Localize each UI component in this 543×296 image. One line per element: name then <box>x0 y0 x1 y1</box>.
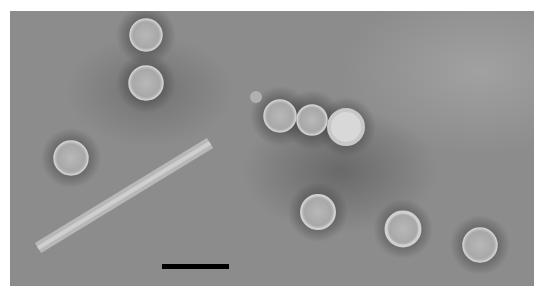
particle <box>386 212 420 246</box>
particle <box>329 110 363 144</box>
scale-bar <box>162 264 229 269</box>
particle-small <box>250 91 262 103</box>
micrograph <box>10 11 534 286</box>
particle <box>463 228 497 262</box>
particle-halos <box>41 11 510 275</box>
particle <box>54 141 88 175</box>
particle <box>130 19 162 51</box>
particle <box>301 195 335 229</box>
particles-layer <box>10 11 534 286</box>
particle <box>297 105 327 135</box>
particle <box>264 100 296 132</box>
particle <box>129 66 163 100</box>
